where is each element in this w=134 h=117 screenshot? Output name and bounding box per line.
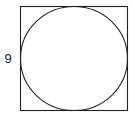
figure-canvas: 9	[0, 0, 134, 117]
square-side-label: 9	[4, 51, 11, 66]
inscribed-circle	[21, 7, 128, 111]
geometry-figure: 9	[0, 0, 134, 117]
